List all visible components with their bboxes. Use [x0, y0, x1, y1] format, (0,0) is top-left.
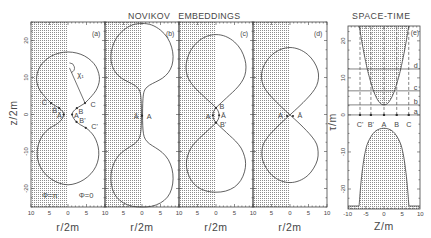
- x-tick-label: 10: [250, 210, 257, 216]
- figure: NOVIKOV EMBEDDINGS SPACE-TIME 1050520100…: [0, 0, 431, 238]
- y-tick-label: 20: [23, 37, 29, 44]
- x-tick-label: 10: [417, 211, 424, 217]
- point-marker: [212, 114, 214, 116]
- point-label: A: [147, 112, 152, 121]
- point-label: B': [79, 116, 86, 125]
- worldline-label: A: [382, 120, 387, 129]
- point-marker: [50, 102, 52, 104]
- point-marker: [75, 121, 77, 123]
- slice-label: b: [414, 97, 418, 106]
- x-axis-title: r/2m: [56, 221, 79, 233]
- panel-label: (e): [411, 29, 419, 37]
- event-marker: [383, 114, 385, 116]
- panel-label: (c): [240, 30, 248, 38]
- worldline-label: B: [394, 120, 399, 129]
- x-tick-label: 10: [28, 210, 35, 216]
- point-marker: [286, 115, 288, 117]
- x-axis-title: r/2m: [278, 221, 301, 233]
- event-marker: [370, 114, 372, 116]
- point-label: A: [278, 111, 283, 120]
- y-tick-label: -20: [340, 184, 346, 193]
- shaded-region: [31, 22, 68, 207]
- point-label: B: [79, 107, 84, 116]
- x-axis-title: Z/m: [374, 220, 394, 232]
- point-marker: [215, 122, 217, 124]
- shaded-region: [253, 22, 290, 207]
- point-label: Ā: [221, 111, 226, 120]
- event-marker: [359, 114, 361, 116]
- panel-label: (b): [166, 30, 174, 38]
- y-axis-title: τ/m: [326, 113, 338, 131]
- worldline-label: C: [406, 120, 411, 129]
- point-marker: [63, 113, 65, 115]
- point-marker: [85, 127, 87, 129]
- point-label: C: [91, 100, 96, 109]
- x-tick-label: 10: [102, 210, 109, 216]
- point-marker: [84, 102, 86, 104]
- x-axis-title: r/2m: [204, 221, 227, 233]
- worldline-label: C': [357, 120, 364, 129]
- annotation-text: Φ=π: [42, 191, 58, 200]
- y-tick-label: 10: [340, 74, 346, 81]
- slice-label: c: [414, 83, 418, 92]
- point-marker: [58, 107, 60, 109]
- event-marker: [396, 114, 398, 116]
- point-label: B: [220, 102, 225, 111]
- y-tick-label: 20: [340, 37, 346, 44]
- panel-label: (a): [92, 30, 100, 38]
- point-marker: [292, 115, 294, 117]
- annotation-text: Φ=0: [79, 191, 94, 200]
- worldline-label: B': [368, 120, 375, 129]
- y-tick-label: -20: [23, 184, 29, 193]
- point-marker: [215, 107, 217, 109]
- y-tick-label: 10: [23, 74, 29, 81]
- x-tick-label: -5: [363, 211, 369, 217]
- point-label: A: [206, 112, 211, 121]
- y-tick-label: -10: [23, 147, 29, 156]
- point-marker: [71, 113, 73, 115]
- spacetime-title: SPACE-TIME: [352, 11, 410, 21]
- y-axis-title: z/2m: [7, 100, 19, 125]
- x-tick-label: 10: [176, 210, 183, 216]
- slice-label: d: [414, 61, 418, 70]
- y-tick-label: -10: [340, 147, 346, 156]
- event-marker: [408, 114, 410, 116]
- x-tick-label: -10: [343, 211, 352, 217]
- point-marker: [218, 114, 220, 116]
- embeddings-title: NOVIKOV EMBEDDINGS: [128, 11, 240, 21]
- panel-label: (d): [314, 30, 322, 38]
- x-tick-label: 10: [324, 210, 331, 216]
- x-axis-title: r/2m: [130, 221, 153, 233]
- annotation-text: χ₁: [77, 70, 84, 79]
- point-label: C': [91, 122, 98, 131]
- point-label: C̄: [42, 98, 47, 107]
- point-label: Ā: [57, 111, 62, 120]
- point-label: Ā: [134, 112, 139, 121]
- point-label: Ā: [298, 111, 303, 120]
- point-marker: [141, 115, 143, 117]
- point-label: B': [220, 120, 227, 129]
